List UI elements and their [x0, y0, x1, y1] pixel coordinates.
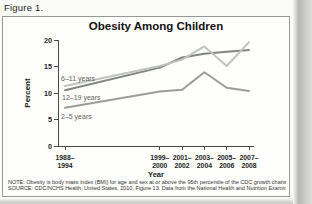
x-tick-label: 2001– [173, 154, 192, 161]
series-label-2: 2–5 years [61, 113, 92, 121]
x-tick-label: 2002 [175, 162, 190, 169]
scanned-page: Figure 1. Obesity Among Children 0510152… [0, 0, 312, 204]
x-tick-label: 2003– [195, 154, 214, 161]
x-tick-label: 2008 [241, 162, 256, 169]
y-tick-label: 0 [48, 142, 52, 151]
x-tick-label: 1999– [150, 154, 169, 161]
chart-plot: 051015201988–19941999–20002001–20022003–… [3, 17, 289, 196]
figure-source-line: SOURCE: CDC/NCHS Health, United States, … [8, 185, 286, 191]
x-tick-label: 2006 [219, 162, 234, 169]
y-tick-label: 15 [44, 62, 52, 71]
y-tick-label: 10 [44, 89, 52, 98]
y-axis-title: Percent [23, 78, 32, 108]
y-tick-label: 20 [44, 36, 52, 45]
figure-notes: NOTE: Obesity is body mass index (BMI) f… [8, 179, 286, 192]
x-tick-label: 2004 [197, 162, 212, 169]
x-tick-label: 2007– [240, 154, 259, 161]
series-label-0: 6–11 years [61, 75, 96, 83]
x-tick-label: 2000 [152, 162, 167, 169]
chart-figure-box: Obesity Among Children 051015201988–1994… [2, 16, 290, 197]
y-tick-label: 5 [48, 115, 52, 124]
x-tick-label: 1994 [57, 162, 72, 169]
x-tick-label: 2005– [217, 154, 236, 161]
page-bottom-shadow [0, 198, 293, 204]
x-axis-title: Year [148, 170, 164, 179]
series-label-1: 12–19 years [62, 94, 101, 102]
page-edge-shadow [293, 0, 312, 204]
x-tick-label: 1988– [56, 154, 75, 161]
figure-label: Figure 1. [4, 2, 43, 13]
